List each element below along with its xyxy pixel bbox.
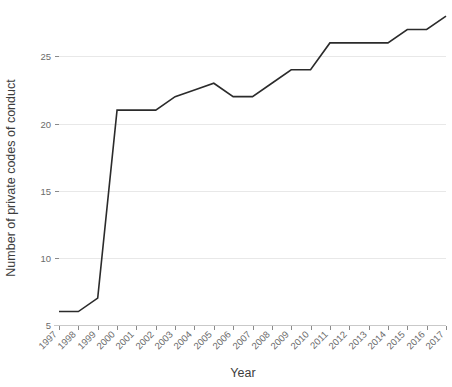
y-tick-labels: 510152025 xyxy=(40,51,51,331)
x-tick-label: 2012 xyxy=(326,329,349,352)
x-tick-label: 2014 xyxy=(365,329,388,352)
y-tick-label: 10 xyxy=(40,253,51,264)
chart-canvas: 510152025 199719981999200020012002200320… xyxy=(0,0,452,387)
x-tick-labels: 1997199819992000200120022003200420052006… xyxy=(36,329,446,352)
x-tick-label: 2006 xyxy=(210,329,233,352)
x-tick-label: 2003 xyxy=(152,329,175,352)
y-tick-label: 25 xyxy=(40,51,51,62)
y-tick-label: 20 xyxy=(40,119,51,130)
x-tick-label: 1999 xyxy=(75,329,98,352)
x-tick-label: 2016 xyxy=(404,329,427,352)
x-tick-label: 2010 xyxy=(288,329,311,352)
x-axis-title: Year xyxy=(230,366,255,380)
line-chart: 510152025 199719981999200020012002200320… xyxy=(0,0,452,387)
x-tick-label: 2000 xyxy=(94,329,117,352)
x-tick-label: 1998 xyxy=(55,329,78,352)
x-tick-label: 2013 xyxy=(346,329,369,352)
x-tick-label: 2001 xyxy=(113,329,136,352)
x-tick-label: 2008 xyxy=(249,329,272,352)
x-tick-label: 2002 xyxy=(133,329,156,352)
x-tick-label: 2005 xyxy=(191,329,214,352)
x-tick-marks xyxy=(60,326,447,330)
x-tick-label: 2004 xyxy=(171,329,194,352)
y-tick-label: 15 xyxy=(40,186,51,197)
x-tick-label: 1997 xyxy=(36,329,59,352)
x-tick-label: 2007 xyxy=(230,329,253,352)
data-series-line xyxy=(59,16,446,312)
x-tick-label: 2009 xyxy=(268,329,291,352)
y-tick-marks xyxy=(55,57,59,326)
y-axis-title: Number of private codes of conduct xyxy=(4,79,18,277)
x-tick-label: 2015 xyxy=(384,329,407,352)
x-tick-label: 2017 xyxy=(423,329,446,352)
x-tick-label: 2011 xyxy=(308,329,330,351)
